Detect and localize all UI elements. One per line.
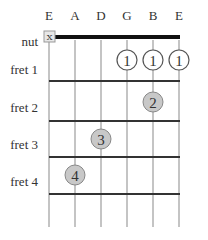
- finger-number: 3: [97, 132, 105, 148]
- finger-number: 1: [175, 53, 183, 69]
- fret-label-1: fret 1: [10, 62, 38, 77]
- finger-number: 1: [123, 53, 131, 69]
- filled-fingers: 2 3 4: [65, 92, 163, 185]
- finger-number: 2: [149, 95, 157, 111]
- mute-label: X: [47, 33, 53, 42]
- muted-string-marker: X: [44, 31, 55, 42]
- nut-label: nut: [21, 34, 38, 49]
- string-label-6: E: [175, 8, 183, 23]
- string-label-4: G: [122, 8, 131, 23]
- nut-bar: [49, 35, 180, 39]
- finger-number: 1: [149, 53, 157, 69]
- string-labels: E A D G B E: [45, 8, 183, 23]
- row-labels: nut fret 1 fret 2 fret 3 fret 4: [10, 34, 38, 189]
- string-label-5: B: [149, 8, 158, 23]
- string-label-3: D: [96, 8, 105, 23]
- fret-label-2: fret 2: [10, 100, 38, 115]
- chord-diagram: E A D G B E nut fret 1 fret 2 fret 3 fre…: [0, 0, 208, 240]
- fret1-fingers: 1 1 1: [117, 50, 189, 70]
- finger-number: 4: [71, 168, 79, 184]
- string-label-1: E: [45, 8, 53, 23]
- fret-label-4: fret 4: [10, 174, 38, 189]
- string-label-2: A: [70, 8, 80, 23]
- fret-label-3: fret 3: [10, 137, 38, 152]
